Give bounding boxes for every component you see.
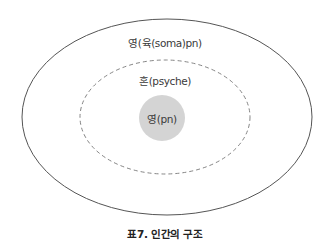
figure-caption: 표7. 인간의 구조 xyxy=(127,226,203,241)
inner-layer-label: 영(pn) xyxy=(147,111,177,126)
middle-layer-label: 혼(psyche) xyxy=(139,73,191,88)
outer-layer-label: 영(육(soma)pn) xyxy=(128,35,201,50)
